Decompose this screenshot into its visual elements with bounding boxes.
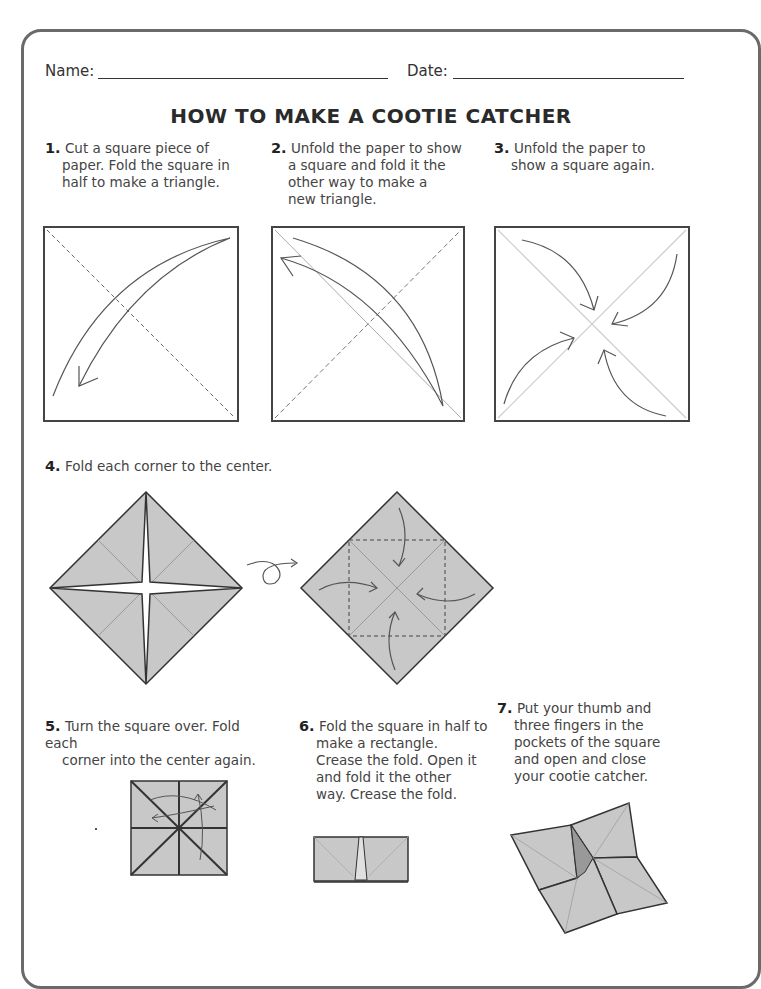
step-line: Put your thumb and	[517, 700, 652, 716]
step-3-diagram	[494, 226, 690, 422]
step-line: way. Crease the fold.	[299, 786, 489, 803]
date-field[interactable]	[453, 78, 684, 79]
step-line: corner into the center again.	[45, 752, 275, 769]
step-line: Crease the fold. Open it	[299, 752, 489, 769]
step-line: new triangle.	[271, 191, 481, 208]
step-2-diagram	[271, 226, 465, 422]
step-number: 5.	[45, 718, 61, 734]
step-line: three fingers in the	[497, 717, 687, 734]
stray-mark	[95, 828, 97, 830]
name-field[interactable]	[98, 78, 388, 79]
step-4-fold-lines-diagram	[299, 490, 495, 686]
step-3-text: 3. Unfold the paper to show a square aga…	[494, 140, 704, 174]
step-line: and fold it the other	[299, 769, 489, 786]
step-line: Fold the square in half to	[319, 718, 488, 734]
step-line: half to make a triangle.	[45, 174, 255, 191]
step-4-text: 4. Fold each corner to the center.	[45, 458, 272, 475]
step-6-diagram	[313, 836, 409, 884]
step-line: other way to make a	[271, 174, 481, 191]
step-1-diagram	[43, 226, 239, 422]
step-2-text: 2. Unfold the paper to show a square and…	[271, 140, 481, 208]
step-number: 6.	[299, 718, 315, 734]
step-line: your cootie catcher.	[497, 768, 687, 785]
step-4-folded-diagram	[48, 490, 244, 686]
step-6-text: 6. Fold the square in half to make a rec…	[299, 718, 489, 803]
step-line: Fold each corner to the center.	[65, 458, 272, 474]
page-title: HOW TO MAKE A COOTIE CATCHER	[0, 104, 742, 128]
step-number: 3.	[494, 140, 510, 156]
step-line: a square and fold it the	[271, 157, 481, 174]
step-line: make a rectangle.	[299, 735, 489, 752]
step-line: and open and close	[497, 751, 687, 768]
step-line: Unfold the paper to show	[291, 140, 462, 156]
step-7-cootie-catcher-diagram	[509, 800, 669, 930]
step-5-text: 5. Turn the square over. Fold each corne…	[45, 718, 275, 769]
turn-over-icon	[245, 555, 305, 590]
step-line: Turn the square over. Fold each	[45, 718, 240, 751]
name-label: Name:	[45, 62, 94, 80]
step-line: pockets of the square	[497, 734, 687, 751]
step-number: 2.	[271, 140, 287, 156]
step-line: paper. Fold the square in	[45, 157, 255, 174]
step-number: 4.	[45, 458, 61, 474]
step-number: 1.	[45, 140, 61, 156]
step-line: Cut a square piece of	[65, 140, 209, 156]
step-number: 7.	[497, 700, 513, 716]
step-line: show a square again.	[494, 157, 704, 174]
date-label: Date:	[407, 62, 448, 80]
step-line: Unfold the paper to	[514, 140, 646, 156]
step-5-diagram	[130, 780, 228, 876]
step-1-text: 1. Cut a square piece of paper. Fold the…	[45, 140, 255, 191]
step-7-text: 7. Put your thumb and three fingers in t…	[497, 700, 687, 785]
